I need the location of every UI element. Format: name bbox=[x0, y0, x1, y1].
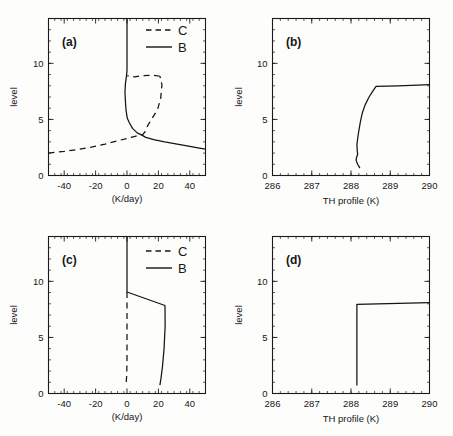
panel-b-xtick-label: 290 bbox=[422, 180, 438, 191]
panel-b-ytick-label: 0 bbox=[262, 170, 267, 181]
panel-b-data bbox=[356, 85, 429, 168]
panel-a-xtick-label: -40 bbox=[57, 180, 71, 191]
legend-label-b-c: B bbox=[178, 261, 187, 276]
panel-b-xtick-label: 288 bbox=[343, 180, 359, 191]
panel-c-legend: C B bbox=[146, 244, 187, 276]
panel-b-svg: 286287288289290 0510 (b) TH profile (K) … bbox=[226, 0, 453, 218]
panel-b-xlabel: TH profile (K) bbox=[323, 195, 379, 206]
panel-c-series-C bbox=[126, 292, 127, 385]
panel-a-xlabel: (K/day) bbox=[112, 193, 143, 204]
panel-a: -40-2002040 0510 (a) C B (K/day) level bbox=[0, 0, 226, 218]
panel-c-xtick-label: 20 bbox=[153, 398, 164, 409]
panel-c-ytick-label: 5 bbox=[38, 332, 43, 343]
panel-a-series-C-top bbox=[127, 75, 160, 77]
panel-a-ytick-label: 10 bbox=[33, 58, 44, 69]
panel-a-xtick-label: -20 bbox=[89, 180, 103, 191]
panel-a-series-B bbox=[125, 19, 206, 150]
panel-d-xtick-label: 290 bbox=[422, 398, 438, 409]
panel-b-xtick-label: 286 bbox=[265, 180, 281, 191]
panel-d-xtick-label: 289 bbox=[382, 398, 398, 409]
panel-c-svg: -40-2002040 0510 (c) C B (K/day) level bbox=[0, 218, 226, 436]
panel-b-series-TH bbox=[356, 85, 429, 168]
panel-c-xtick-label: 0 bbox=[124, 398, 129, 409]
panel-d-xtick-label: 286 bbox=[265, 398, 281, 409]
panel-a-tag: (a) bbox=[62, 35, 77, 49]
figure-container: -40-2002040 0510 (a) C B (K/day) level bbox=[0, 0, 453, 436]
panel-b-yticks: 0510 bbox=[257, 19, 430, 182]
panel-a-ytick-label: 5 bbox=[38, 114, 43, 125]
panel-d-xtick-label: 287 bbox=[304, 398, 320, 409]
panel-d-ytick-label: 10 bbox=[257, 276, 268, 287]
panel-b-ytick-label: 10 bbox=[257, 58, 268, 69]
panel-b-tag: (b) bbox=[286, 35, 301, 49]
panel-a-svg: -40-2002040 0510 (a) C B (K/day) level bbox=[0, 0, 226, 218]
panel-c-xtick-label: -20 bbox=[89, 398, 103, 409]
panel-b-xtick-label: 289 bbox=[382, 180, 398, 191]
panel-a-xtick-label: 20 bbox=[153, 180, 164, 191]
panel-d-ytick-label: 0 bbox=[262, 388, 267, 399]
panel-c-tag: (c) bbox=[62, 253, 77, 267]
panel-c-ytick-label: 0 bbox=[38, 388, 43, 399]
panel-c-ytick-label: 10 bbox=[33, 276, 44, 287]
panel-d-ytick-label: 5 bbox=[262, 332, 267, 343]
panel-b-ytick-label: 5 bbox=[262, 114, 267, 125]
panel-c-xlabel: (K/day) bbox=[112, 411, 143, 422]
panel-c-xtick-label: -40 bbox=[57, 398, 71, 409]
panel-d-tag: (d) bbox=[286, 253, 301, 267]
panel-a-ytick-label: 0 bbox=[38, 170, 43, 181]
panel-c-series-B bbox=[127, 237, 165, 385]
panel-b-ylabel: level bbox=[233, 87, 244, 107]
panel-a-legend: C B bbox=[146, 23, 187, 55]
panel-a-xtick-label: 40 bbox=[185, 180, 196, 191]
legend-label-b-a: B bbox=[178, 40, 187, 55]
panel-d-data bbox=[357, 303, 430, 385]
panel-c-xtick-label: 40 bbox=[185, 398, 196, 409]
panel-b: 286287288289290 0510 (b) TH profile (K) … bbox=[226, 0, 453, 218]
panel-a-series-C bbox=[49, 76, 163, 153]
panel-d-svg: 286287288289290 0510 (d) TH profile (K) … bbox=[226, 218, 453, 436]
panel-b-axes: 286287288289290 0510 bbox=[257, 19, 438, 191]
panel-a-ylabel: level bbox=[8, 87, 19, 107]
panel-a-xtick-label: 0 bbox=[124, 180, 129, 191]
panel-c-ylabel: level bbox=[8, 305, 19, 325]
panel-d-xtick-label: 288 bbox=[343, 398, 359, 409]
panel-d-series-TH bbox=[357, 303, 430, 385]
panel-d-yticks: 0510 bbox=[257, 237, 430, 400]
panel-d-xlabel: TH profile (K) bbox=[323, 413, 379, 424]
panel-d: 286287288289290 0510 (d) TH profile (K) … bbox=[226, 218, 453, 436]
panel-d-axes: 286287288289290 0510 bbox=[257, 237, 438, 409]
panel-d-ylabel: level bbox=[233, 305, 244, 325]
legend-label-c-a: C bbox=[178, 23, 187, 38]
panel-b-xtick-label: 287 bbox=[304, 180, 320, 191]
legend-label-c-c: C bbox=[178, 244, 187, 259]
panel-c-data bbox=[126, 237, 165, 385]
panel-c: -40-2002040 0510 (c) C B (K/day) level bbox=[0, 218, 226, 436]
